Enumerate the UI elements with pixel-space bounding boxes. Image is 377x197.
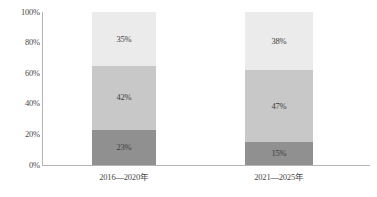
y-axis-tick-60: 60% [2, 69, 40, 78]
bar-segment[interactable]: 47% [245, 70, 313, 142]
stacked-bar-chart: 100%80%60%40%20%0% 35%42%23%38%47%15% 20… [0, 0, 377, 197]
bar-column[interactable]: 35%42%23% [92, 12, 156, 165]
bar-column[interactable]: 38%47%15% [245, 12, 313, 165]
y-axis-line [42, 12, 43, 166]
y-axis-tick-100: 100% [2, 8, 40, 17]
y-axis-tick-20: 20% [2, 130, 40, 139]
bar-segment[interactable]: 42% [92, 66, 156, 130]
category-label: 2016—2020年 [64, 173, 184, 182]
bar-segment[interactable]: 15% [245, 142, 313, 165]
bar-segment[interactable]: 38% [245, 12, 313, 70]
bar-segment-label: 15% [272, 149, 287, 158]
x-axis-line [42, 165, 370, 166]
y-axis-tick-80: 80% [2, 38, 40, 47]
category-label: 2021—2025年 [219, 173, 339, 182]
bar-segment[interactable]: 35% [92, 12, 156, 66]
bar-segment-label: 35% [117, 35, 132, 44]
y-axis-tick-labels: 100%80%60%40%20%0% [0, 0, 40, 197]
y-axis-tick-0: 0% [2, 161, 40, 170]
bar-segment-label: 23% [117, 143, 132, 152]
bar-segment-label: 38% [272, 37, 287, 46]
y-axis-tick-40: 40% [2, 99, 40, 108]
bar-segment-label: 42% [117, 93, 132, 102]
bar-segment-label: 47% [272, 102, 287, 111]
bar-segment[interactable]: 23% [92, 130, 156, 165]
